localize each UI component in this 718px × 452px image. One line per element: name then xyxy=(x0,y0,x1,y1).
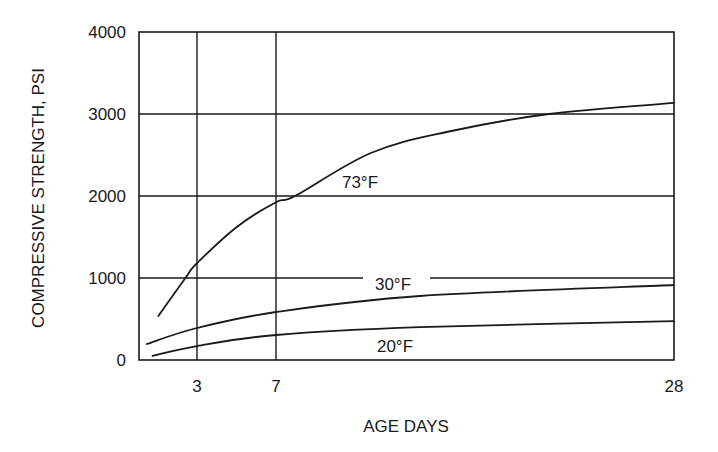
y-tick-label: 2000 xyxy=(88,187,126,206)
x-axis-ticks: 3728 xyxy=(192,377,683,396)
curve-label-30f: 30°F xyxy=(375,275,411,294)
y-tick-label: 1000 xyxy=(88,269,126,288)
y-tick-label: 3000 xyxy=(88,105,126,124)
curves xyxy=(147,103,674,356)
curve-label-73f: 73°F xyxy=(342,173,378,192)
compressive-strength-chart: 01000200030004000 3728 AGE DAYS COMPRESS… xyxy=(0,0,718,452)
y-axis-title: COMPRESSIVE STRENGTH, PSI xyxy=(29,68,48,328)
curve-73f xyxy=(158,103,674,316)
x-tick-label: 3 xyxy=(192,377,201,396)
y-tick-label: 0 xyxy=(117,351,126,370)
curve-label-20f: 20°F xyxy=(377,337,413,356)
curve-20f xyxy=(153,321,675,356)
x-tick-label: 7 xyxy=(271,377,280,396)
gridlines xyxy=(139,32,674,360)
x-tick-label: 28 xyxy=(665,377,684,396)
x-axis-title: AGE DAYS xyxy=(363,417,449,436)
y-axis-ticks: 01000200030004000 xyxy=(88,23,126,370)
y-tick-label: 4000 xyxy=(88,23,126,42)
